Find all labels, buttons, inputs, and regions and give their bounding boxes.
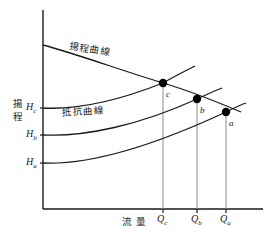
y-tick-label-hc-sub: c <box>33 107 36 115</box>
y-tick-label-ha-sub: a <box>33 162 37 170</box>
x-tick-label-qa: Qa <box>220 214 231 227</box>
x-axis-title: 流 量 <box>122 217 147 227</box>
x-tick-label-qb-sub: b <box>198 219 202 227</box>
x-tick-label-qb: Qb <box>191 214 202 227</box>
y-axis-title-char-2: 程 <box>12 110 24 123</box>
x-tick-label-qc: Qc <box>157 214 167 227</box>
y-tick-label-hc: Hc <box>26 102 36 115</box>
operating-point-label-c: c <box>166 90 170 99</box>
y-axis-title-char-1: 揚 <box>12 97 24 110</box>
pump-head-flow-diagram: 揚 程 Hc Hb Ha 流 量 Qc Qb Qa 揚程曲線 抵抗曲線 c b … <box>0 0 272 244</box>
operating-point-label-a: a <box>229 119 234 128</box>
y-axis-title: 揚 程 <box>12 97 24 123</box>
head-curve-path <box>43 45 241 112</box>
x-tick-label-qc-sub: c <box>164 219 167 227</box>
x-tick-label-qa-sub: a <box>227 219 231 227</box>
operating-point-label-b: b <box>200 106 205 115</box>
resistance-curve-c-path <box>43 66 195 108</box>
operating-point-b-marker <box>193 95 201 103</box>
operating-point-a-marker <box>222 108 230 116</box>
y-tick-label-ha: Ha <box>26 157 37 170</box>
operating-point-c-marker <box>159 79 167 87</box>
resistance-curve-label: 抵抗曲線 <box>62 106 104 118</box>
y-tick-label-hb-sub: b <box>33 134 37 142</box>
y-tick-label-hb: Hb <box>26 129 37 142</box>
